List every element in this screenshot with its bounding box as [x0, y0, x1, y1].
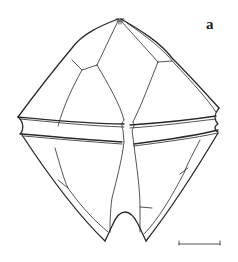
figure-panel: a: [0, 0, 238, 262]
scale-bar: [0, 0, 238, 262]
panel-label: a: [206, 17, 214, 32]
